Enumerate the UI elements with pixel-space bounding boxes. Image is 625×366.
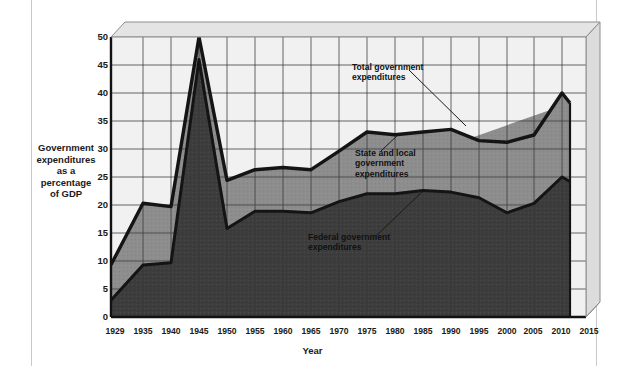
chart-figure: Government expenditures as a percentage … xyxy=(0,0,625,366)
annotation-state-local-expenditures: State and local government expenditures xyxy=(355,148,416,179)
panel-top-face xyxy=(111,22,600,37)
annotation-federal-expenditures: Federal government expenditures xyxy=(308,232,390,253)
panel-right-face xyxy=(586,22,600,317)
plot-canvas xyxy=(0,0,625,366)
annotation-total-expenditures: Total government expenditures xyxy=(352,62,423,83)
